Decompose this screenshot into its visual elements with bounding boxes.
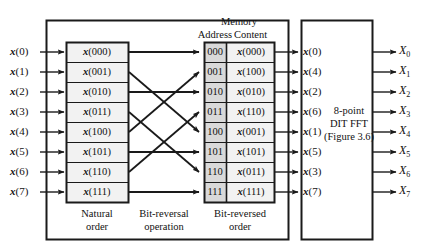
output-label-3: X3 [399, 104, 410, 119]
memory-content-7: x(111) [227, 187, 275, 198]
memory-address-1: 001 [204, 67, 226, 78]
output-label-5: X5 [399, 144, 410, 159]
input-label-0: x(0) [10, 46, 28, 57]
fft-block-reference: (Figure 3.6) [314, 130, 384, 143]
caption-bit-reversal-line2: operation [128, 221, 200, 233]
memory-address-2: 010 [204, 87, 226, 98]
output-label-6: X6 [399, 164, 410, 179]
fft-input-label-6: x(3) [303, 166, 321, 177]
memory-content-6: x(011) [227, 167, 275, 178]
input-connector-lines [40, 52, 64, 192]
memory-content-2: x(010) [227, 87, 275, 98]
caption-bit-reversal-line1: Bit-reversal [128, 208, 200, 220]
fft-input-label-3: x(6) [303, 106, 321, 117]
fft-input-label-5: x(5) [303, 146, 321, 157]
natural-cell-3: x(011) [66, 107, 128, 118]
memory-content-3: x(110) [227, 107, 275, 118]
content-column-header: Content [226, 30, 275, 41]
fft-block-subtitle: DIT FFT [322, 117, 376, 130]
memory-address-6: 110 [204, 167, 226, 178]
memory-address-5: 101 [204, 147, 226, 158]
fft-input-label-2: x(2) [303, 86, 321, 97]
input-label-6: x(6) [10, 166, 28, 177]
fft-block-title: 8-point [322, 104, 376, 117]
memory-address-3: 011 [204, 107, 226, 118]
input-label-4: x(4) [10, 126, 28, 137]
natural-cell-4: x(100) [66, 127, 128, 138]
natural-cell-5: x(101) [66, 147, 128, 158]
memory-content-1: x(100) [227, 67, 275, 78]
input-label-2: x(2) [10, 86, 28, 97]
caption-natural-order-line1: Natural [66, 208, 128, 220]
natural-cell-2: x(010) [66, 87, 128, 98]
natural-cell-6: x(110) [66, 167, 128, 178]
memory-content-4: x(001) [227, 127, 275, 138]
caption-natural-order-line2: order [66, 221, 128, 233]
memory-content-5: x(101) [227, 147, 275, 158]
natural-cell-1: x(001) [66, 67, 128, 78]
input-label-1: x(1) [10, 66, 28, 77]
caption-bit-reversed-line1: Bit-reversed [202, 208, 278, 220]
memory-address-0: 000 [204, 47, 226, 58]
memory-content-0: x(000) [227, 47, 275, 58]
natural-cell-0: x(000) [66, 47, 128, 58]
natural-cell-7: x(111) [66, 187, 128, 198]
output-label-0: X0 [399, 44, 410, 59]
output-label-4: X4 [399, 124, 410, 139]
caption-bit-reversed-line2: order [202, 221, 278, 233]
output-label-2: X2 [399, 84, 410, 99]
fft-input-label-1: x(4) [303, 66, 321, 77]
memory-address-7: 111 [204, 187, 226, 198]
memory-header: Memory [204, 17, 274, 28]
input-label-3: x(3) [10, 106, 28, 117]
output-connector-lines [373, 52, 396, 192]
figure-canvas: x(0) x(1) x(2) x(3) x(4) x(5) x(6) x(7) … [0, 0, 435, 251]
input-label-5: x(5) [10, 146, 28, 157]
output-label-7: X7 [399, 184, 410, 199]
bit-reversal-wires [129, 52, 199, 192]
fft-input-label-7: x(7) [303, 186, 321, 197]
input-label-7: x(7) [10, 186, 28, 197]
memory-to-fft-lines [275, 52, 298, 192]
memory-address-4: 100 [204, 127, 226, 138]
output-label-1: X1 [399, 64, 410, 79]
fft-input-label-0: x(0) [303, 46, 321, 57]
